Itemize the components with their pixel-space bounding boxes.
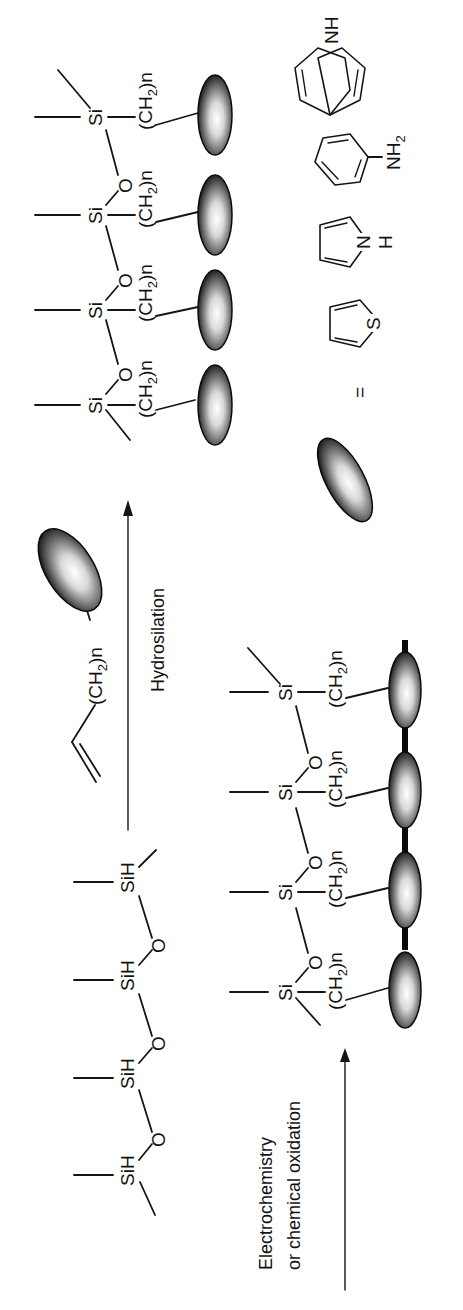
si-atom: Si [85,397,106,414]
sih-atom: SiH [117,862,138,893]
pendant-group-icon [389,752,421,828]
pyrrole-structure: N H [320,217,396,267]
thiophene-structure: S [330,300,384,347]
spacer-label: (CH2)n [325,650,350,708]
spacer-label: (CH2)n [325,850,350,908]
pendant-group-icon [307,430,384,529]
pendant-group-icon [198,75,232,155]
oxidation-label-line-1: Electrochemistry [256,1137,276,1270]
spacer-label: (CH2)n [135,264,160,322]
arrowhead-icon [340,1048,350,1062]
pendant-group-icon [389,652,421,728]
sih-unit-3: SiH [74,950,152,1036]
amine-group: NH2 [383,135,408,170]
spacer-label: (CH2)n [325,952,350,1010]
pendant-group-icon [198,175,232,255]
sih-atom: SiH [117,960,138,991]
nitrogen-atom: N [353,235,374,249]
oxygen-atom: O [115,367,136,382]
oxidation-label-line-2: or chemical oxidation [284,1101,304,1270]
si-atom: Si [275,884,296,901]
si-atom: Si [85,207,106,224]
hydrogen-atom: H [375,235,396,249]
oxygen-atom: O [148,1132,169,1147]
spacer-label: (CH2)n [85,647,110,705]
pendant-group-icon [389,852,421,928]
sulfur-atom: S [363,317,384,330]
oxygen-atom: O [115,273,136,288]
reaction-scheme: SiH O SiH O SiH O SiH [0,0,463,1310]
oxygen-atom: O [305,955,326,970]
oxygen-atom: O [148,938,169,953]
oxygen-atom: O [115,178,136,193]
si-atom: Si [275,784,296,801]
spacer-label: (CH2)n [135,72,160,130]
sih-unit-1: SiH [74,1144,155,1215]
nh-group: NH [321,17,342,44]
oxygen-atom: O [148,1036,169,1051]
pendant-group-icon [198,365,232,445]
sih-unit-2: SiH [74,1048,152,1132]
si-atom: Si [275,984,296,1001]
crosslinked-unit-4: Si (CH2)n [230,648,421,728]
pendant-group-icon [389,952,421,1028]
pendant-group-icon [198,270,232,350]
equals-sign: = [349,387,370,398]
crosslinked-polysiloxane: Si (CH2)n O Si (CH2)n O [230,640,421,1028]
si-atom: Si [275,684,296,701]
sih-unit-4: SiH [74,850,156,938]
spacer-label: (CH2)n [325,750,350,808]
hydrosilation-label: Hydrosilation [148,588,168,692]
oxygen-atom: O [305,755,326,770]
aniline-structure: NH2 [315,134,408,185]
carbazole-structure: NH [295,17,365,115]
si-atom: Si [85,109,106,126]
vinyl-reagent: (CH2)n [25,518,114,782]
oxygen-atom: O [305,855,326,870]
monomer-legend: = S N H [295,17,408,530]
grafted-unit-4: Si (CH2)n [35,70,232,155]
spacer-label: (CH2)n [135,170,160,228]
pendant-group-icon [25,518,114,621]
hydrosilation-arrow [123,500,133,830]
sih-atom: SiH [117,1155,138,1186]
grafted-polysiloxane: Si (CH2)n O Si (CH2)n O [35,70,232,445]
sih-atom: SiH [117,1058,138,1089]
starting-polysiloxane: SiH O SiH O SiH O SiH [74,850,169,1215]
oxidation-arrow [340,1048,350,1290]
arrowhead-icon [123,500,133,516]
si-atom: Si [85,302,106,319]
